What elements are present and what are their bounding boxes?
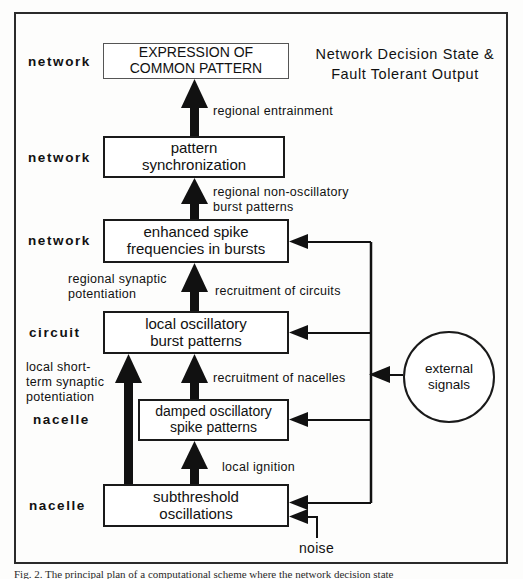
level-label-nacelle-2: nacelle [29, 498, 86, 513]
edge-label-recruitment-nacelles-line-1: recruitment of nacelles [213, 371, 346, 386]
figure-canvas: network network network circuit nacelle … [0, 0, 523, 579]
figure-title-right-line-1: Network Decision State & [300, 45, 510, 65]
node-enhanced-line-2: frequencies in bursts [127, 241, 265, 258]
edge-label-noise-line-1: noise [299, 540, 334, 557]
edge-label-regional-synaptic-potentiation: regional synaptic potentiation [68, 272, 167, 302]
edge-label-noise: noise [299, 540, 334, 557]
edge-label-recruitment-circuits-line-1: recruitment of circuits [215, 284, 341, 299]
node-local-osc-line-1: local oscillatory [145, 316, 247, 333]
level-label-network-3: network [28, 233, 91, 248]
node-local-osc-line-2: burst patterns [150, 333, 242, 350]
edge-label-local-shortterm-line-1: local short- [26, 360, 104, 375]
node-subthreshold-oscillations[interactable]: subthreshold oscillations [103, 484, 289, 527]
edge-label-regional-nonosc-line-1: regional non-oscillatory [213, 185, 349, 200]
node-external-line-1: external [425, 361, 473, 377]
node-expression-line-1: EXPRESSION OF [139, 45, 253, 61]
figure-title-right: Network Decision State & Fault Tolerant … [300, 45, 510, 84]
level-label-circuit: circuit [29, 325, 81, 340]
node-external-line-2: signals [428, 377, 470, 393]
node-subthreshold-line-2: oscillations [159, 506, 232, 523]
node-subthreshold-line-1: subthreshold [153, 489, 239, 506]
edge-label-regional-non-oscillatory: regional non-oscillatory burst patterns [213, 185, 349, 215]
edge-label-recruitment-of-circuits: recruitment of circuits [215, 284, 341, 299]
edge-label-regional-entrainment: regional entrainment [213, 104, 333, 119]
node-damped-oscillatory-spike-patterns[interactable]: damped oscillatory spike patterns [138, 399, 289, 441]
edge-label-local-ignition-line-1: local ignition [222, 460, 295, 475]
node-damped-line-1: damped oscillatory [155, 404, 272, 420]
edge-label-local-shortterm-line-3: potentiation [26, 390, 104, 405]
edge-label-recruitment-of-nacelles: recruitment of nacelles [213, 371, 346, 386]
edge-label-regional-synaptic-line-1: regional synaptic [68, 272, 167, 287]
node-damped-line-2: spike patterns [170, 420, 257, 436]
level-label-network-1: network [28, 54, 91, 69]
node-enhanced-spike-frequencies[interactable]: enhanced spike frequencies in bursts [103, 219, 289, 263]
node-pattern-sync-line-2: synchronization [142, 157, 246, 174]
figure-title-right-line-2: Fault Tolerant Output [300, 65, 510, 85]
level-label-network-2: network [28, 150, 91, 165]
edge-label-local-short-term-synaptic-potentiation: local short- term synaptic potentiation [26, 360, 104, 404]
node-expression-of-common-pattern[interactable]: EXPRESSION OF COMMON PATTERN [103, 43, 289, 79]
node-local-oscillatory-burst-patterns[interactable]: local oscillatory burst patterns [103, 311, 289, 354]
level-label-nacelle-1: nacelle [33, 412, 90, 427]
node-enhanced-line-1: enhanced spike [143, 224, 248, 241]
edge-label-local-ignition: local ignition [222, 460, 295, 475]
node-expression-line-2: COMMON PATTERN [130, 61, 262, 77]
edge-label-regional-nonosc-line-2: burst patterns [213, 200, 349, 215]
figure-caption: Fig. 2. The principal plan of a computat… [14, 568, 514, 579]
node-pattern-sync-line-1: pattern [171, 140, 218, 157]
edge-label-regional-synaptic-line-2: potentiation [68, 287, 167, 302]
edge-label-regional-entrainment-line-1: regional entrainment [213, 104, 333, 119]
node-pattern-synchronization[interactable]: pattern synchronization [103, 136, 285, 178]
edge-label-local-shortterm-line-2: term synaptic [26, 375, 104, 390]
node-external-signals[interactable]: external signals [403, 331, 495, 423]
